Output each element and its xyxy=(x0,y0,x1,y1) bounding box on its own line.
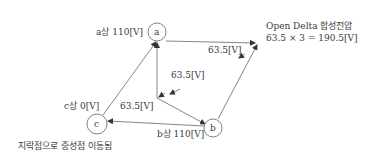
node-b-label: b상 110[V] xyxy=(157,129,204,139)
edge-label-upper-right: 63.5[V] xyxy=(208,45,242,55)
edge-label-lower-left: 63.5[V] xyxy=(120,101,154,111)
edge-label-middle: 63.5[V] xyxy=(171,70,205,80)
node-a-letter: a xyxy=(154,27,159,37)
node-a-label: a상 110[V] xyxy=(96,27,143,37)
annotation-formula: 63.5 × 3 = 190.5[V] xyxy=(266,33,358,43)
node-c-letter: c xyxy=(94,119,99,129)
node-c-label: c상 0[V] xyxy=(64,101,99,111)
node-b-letter: b xyxy=(210,123,216,133)
annotation-title: Open Delta 합성전압 xyxy=(266,21,352,31)
a-to-apex-arrow xyxy=(166,41,255,43)
b-to-apex-arrow xyxy=(218,45,257,119)
middle-tick-arrow xyxy=(170,89,180,94)
footnote: 지락점으로 중성점 이동됨 xyxy=(18,141,112,151)
b-to-c-arrow xyxy=(108,121,204,126)
center-arrow xyxy=(159,93,165,97)
center-to-b-arrow xyxy=(157,98,205,124)
